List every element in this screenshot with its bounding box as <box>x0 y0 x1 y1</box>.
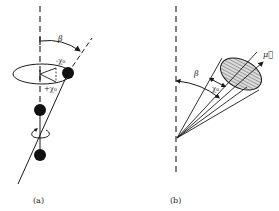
caption-a: (a) <box>33 196 44 205</box>
cone-axis-line <box>177 52 257 138</box>
cone-base-ellipse <box>215 51 267 96</box>
cone-edge-left <box>177 58 222 138</box>
panel-a: β -χ₀ +χ₀ (a) <box>13 6 92 205</box>
panel-b: β χ₀ μ⃗ (b) <box>170 6 273 205</box>
chi-label-b: χ₀ <box>212 85 219 93</box>
mu-vector-label: μ⃗ <box>263 50 273 59</box>
cone-inner-line-2 <box>177 87 247 138</box>
tilted-line-solid <box>18 73 68 184</box>
plus-chi-label: +χ₀ <box>44 85 57 93</box>
atom-ball-bottom <box>34 149 46 161</box>
tilted-line-dashed <box>68 38 92 73</box>
figure-canvas: β -χ₀ +χ₀ (a) β χ₀ μ⃗ (b) <box>0 0 279 211</box>
minus-chi-label: -χ₀ <box>56 57 66 65</box>
cone-inner-line <box>177 62 263 138</box>
caption-b: (b) <box>170 196 181 205</box>
atom-ball-top <box>62 67 74 79</box>
beta-label-a: β <box>57 34 63 43</box>
cone-edge-right <box>177 90 259 138</box>
atom-ball-middle <box>34 104 46 116</box>
beta-label-b: β <box>193 69 199 78</box>
